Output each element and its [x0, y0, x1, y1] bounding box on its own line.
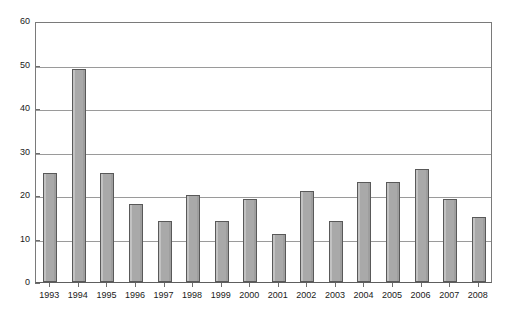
y-tick-label-wrap: 50: [0, 61, 30, 70]
bar-chart: 0102030405060 19931994199519961997199819…: [0, 0, 515, 313]
x-tick-mark: [421, 283, 422, 287]
y-tick-label: 50: [4, 61, 30, 70]
y-tick-label-wrap: 20: [0, 191, 30, 200]
x-tick-mark: [192, 283, 193, 287]
x-tick-mark: [335, 283, 336, 287]
x-tick-mark: [249, 283, 250, 287]
y-tick-label-wrap: 40: [0, 104, 30, 113]
y-tick-mark: [35, 283, 40, 284]
y-tick-label-wrap: 10: [0, 235, 30, 244]
y-tick-label-wrap: 30: [0, 148, 30, 157]
bar: [129, 204, 143, 282]
bar: [415, 169, 429, 282]
bar: [300, 191, 314, 282]
x-tick-mark: [278, 283, 279, 287]
y-tick-label-wrap: 60: [0, 17, 30, 26]
bar: [472, 217, 486, 282]
gridline: [36, 110, 491, 111]
x-tick-mark: [106, 283, 107, 287]
bar: [43, 173, 57, 282]
y-tick-label: 0: [4, 278, 30, 287]
x-tick-mark: [306, 283, 307, 287]
y-tick-label: 60: [4, 17, 30, 26]
y-tick-label: 30: [4, 148, 30, 157]
bar: [100, 173, 114, 282]
bar: [215, 221, 229, 282]
bar: [243, 199, 257, 282]
x-tick-mark: [164, 283, 165, 287]
y-tick-label: 20: [4, 191, 30, 200]
y-tick-label-wrap: 0: [0, 278, 30, 287]
plot-area: [35, 22, 492, 283]
bar: [386, 182, 400, 282]
x-tick-mark: [135, 283, 136, 287]
x-tick-mark: [49, 283, 50, 287]
y-tick-label: 40: [4, 104, 30, 113]
gridline: [36, 67, 491, 68]
x-tick-mark: [392, 283, 393, 287]
bar: [443, 199, 457, 282]
bar: [72, 69, 86, 282]
bar: [357, 182, 371, 282]
x-tick-mark: [478, 283, 479, 287]
x-tick-mark: [363, 283, 364, 287]
bar: [186, 195, 200, 282]
x-tick-label: 2008: [461, 290, 495, 300]
bar: [329, 221, 343, 282]
x-tick-mark: [449, 283, 450, 287]
x-tick-mark: [78, 283, 79, 287]
x-tick-mark: [221, 283, 222, 287]
bar: [158, 221, 172, 282]
bar: [272, 234, 286, 282]
y-tick-label: 10: [4, 235, 30, 244]
gridline: [36, 154, 491, 155]
